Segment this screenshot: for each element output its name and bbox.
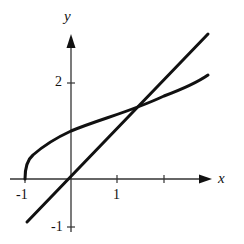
x-tick-label-1: 1: [113, 188, 120, 202]
y-tick-label-neg1: -1: [51, 220, 63, 234]
plot-area: [0, 0, 244, 244]
y-axis-label: y: [64, 9, 71, 24]
x-axis-arrow-icon: [199, 175, 212, 184]
graph: y x -1 1 2 -1: [0, 0, 244, 244]
x-tick-label-neg1: -1: [16, 188, 28, 202]
x-axis-label: x: [218, 171, 225, 186]
y-tick-label-2: 2: [55, 75, 62, 89]
y-axis-arrow-icon: [67, 34, 76, 48]
